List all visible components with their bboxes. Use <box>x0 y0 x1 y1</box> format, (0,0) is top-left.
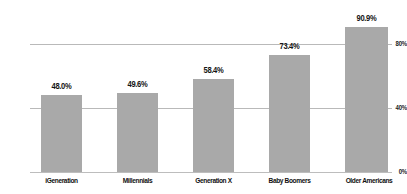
bar-igeneration[interactable] <box>41 95 82 172</box>
category-label-baby-boomers: Baby Boomers <box>263 176 316 185</box>
category-label-igeneration: iGeneration <box>35 176 88 185</box>
bar-value-igeneration: 48.0% <box>38 81 84 91</box>
bar-chart: 80% 40% 0% 48.0% 49.6% 58.4% 73.4% 90.9%… <box>0 0 407 194</box>
bar-millennials[interactable] <box>117 93 158 172</box>
bar-value-millennials: 49.6% <box>114 79 160 89</box>
plot-area: 80% 40% 0% 48.0% 49.6% 58.4% 73.4% 90.9%… <box>0 0 407 194</box>
bar-older-americans[interactable] <box>345 27 388 172</box>
gridline-80 <box>30 44 392 45</box>
category-label-older-americans: Older Americans <box>340 176 397 185</box>
gridline-0-baseline <box>30 172 392 173</box>
category-label-generation-x: Generation X <box>187 176 240 185</box>
bar-value-baby-boomers: 73.4% <box>266 41 312 51</box>
bar-baby-boomers[interactable] <box>269 55 310 172</box>
bar-generation-x[interactable] <box>193 79 234 172</box>
bar-value-older-americans: 90.9% <box>343 13 389 23</box>
category-label-millennials: Millennials <box>111 176 164 185</box>
bar-value-generation-x: 58.4% <box>190 65 236 75</box>
